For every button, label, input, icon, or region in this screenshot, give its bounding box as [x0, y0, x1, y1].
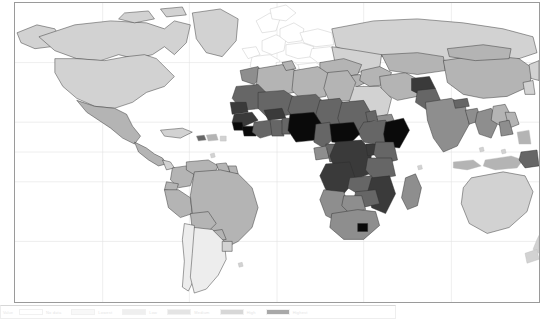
world-map-svg[interactable]	[15, 3, 539, 302]
legend-row: Value No data Lowest Low Medium High	[1, 306, 395, 318]
legend-swatch-0	[19, 309, 43, 315]
legend-swatch-5	[266, 309, 290, 315]
legend-swatch-4	[220, 309, 244, 315]
legend-title: Value	[3, 310, 13, 315]
legend-item-5[interactable]: Highest	[266, 309, 308, 315]
legend-label-3: Medium	[194, 310, 209, 315]
region-north-america[interactable]	[17, 7, 238, 170]
legend-label-4: High	[247, 310, 256, 315]
legend-label-1: Lowest	[98, 310, 112, 315]
legend-swatch-1	[71, 309, 95, 315]
legend-swatch-2	[122, 309, 146, 315]
legend-item-4[interactable]: High	[220, 309, 256, 315]
screenshot-root: Value No data Lowest Low Medium High	[0, 0, 551, 319]
legend-item-3[interactable]: Medium	[167, 309, 209, 315]
legend-label-2: Low	[149, 310, 157, 315]
legend-item-0[interactable]: No data	[19, 309, 61, 315]
legend-label-5: Highest	[293, 310, 308, 315]
legend-swatch-3	[167, 309, 191, 315]
map-legend-panel[interactable]: Value No data Lowest Low Medium High	[0, 305, 396, 319]
region-south-america[interactable]	[164, 160, 258, 293]
world-map-frame[interactable]	[14, 2, 540, 303]
region-oceania[interactable]	[453, 150, 539, 263]
legend-item-2[interactable]: Low	[122, 309, 157, 315]
legend-item-1[interactable]: Lowest	[71, 309, 112, 315]
legend-label-0: No data	[46, 310, 61, 315]
